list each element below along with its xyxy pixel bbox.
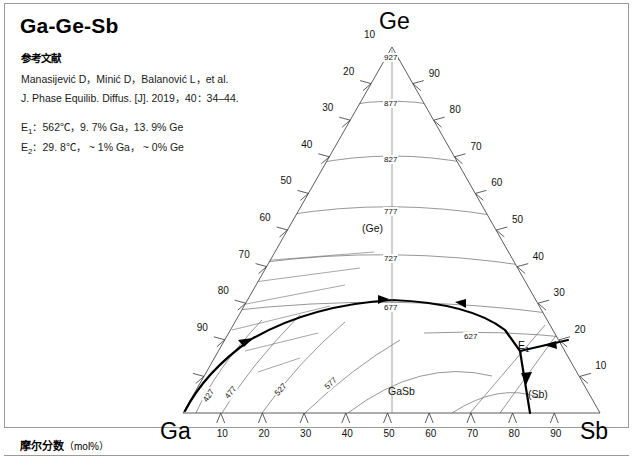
right-tick-20: 20: [574, 324, 585, 335]
isotherm-label-877: 877: [383, 99, 398, 108]
left-tick-40: 40: [301, 139, 312, 150]
left-tick-10: 10: [364, 29, 375, 40]
isotherm-label-677: 677: [383, 303, 398, 312]
bottom-tick-80: 80: [509, 428, 520, 439]
left-tick-20: 20: [343, 66, 354, 77]
isotherm-label-927: 927: [383, 53, 398, 62]
arrow-dome-right: [455, 299, 466, 308]
bottom-tick-10: 10: [217, 428, 228, 439]
isotherm-label-727: 727: [383, 254, 398, 263]
ternary-diagram: [0, 0, 634, 475]
right-tick-60: 60: [491, 177, 502, 188]
right-tick-80: 80: [450, 104, 461, 115]
right-tick-70: 70: [470, 141, 481, 152]
right-tick-90: 90: [429, 68, 440, 79]
left-tick-50: 50: [280, 175, 291, 186]
isotherm-label-777: 777: [383, 207, 398, 216]
right-tick-50: 50: [512, 214, 523, 225]
isotherm-label-627: 627: [463, 332, 478, 341]
ge-phase-label: (Ge): [362, 222, 383, 234]
bottom-tick-90: 90: [550, 428, 561, 439]
left-tick-90: 90: [197, 322, 208, 333]
isotherm-label-827: 827: [383, 155, 398, 164]
gasb-phase-label: GaSb: [388, 385, 415, 397]
bottom-tick-40: 40: [342, 428, 353, 439]
isotherm-627: [424, 332, 575, 338]
arrow-to-e2: [521, 372, 532, 385]
isotherm-527: [262, 322, 345, 413]
right-tick-40: 40: [533, 251, 544, 262]
left-tick-70: 70: [239, 249, 250, 260]
left-tick-80: 80: [218, 285, 229, 296]
right-tick-10: 10: [595, 360, 606, 371]
left-tick-60: 60: [260, 212, 271, 223]
bottom-tick-60: 60: [425, 428, 436, 439]
left-axis-ticks: [193, 81, 371, 384]
arrow-dome-lower-left: [238, 338, 253, 347]
right-tick-30: 30: [554, 287, 565, 298]
right-axis-ticks: [413, 81, 591, 384]
sb-phase-label: (Sb): [528, 388, 548, 400]
bottom-tick-20: 20: [258, 428, 269, 439]
isotherm-577-right: [348, 372, 492, 413]
bottom-tick-50: 50: [384, 428, 395, 439]
monovariant-lines: [185, 300, 568, 413]
isotherm-577: [305, 340, 400, 413]
tieline-fan: [196, 252, 374, 372]
bottom-tick-70: 70: [467, 428, 478, 439]
isotherm-curves: [196, 59, 575, 413]
bottom-tick-30: 30: [300, 428, 311, 439]
phase-diagram-page: Ga-Ge-Sb 参考文献 Manasijević D，Minić D，Bala…: [0, 0, 634, 475]
arrow-to-sb: [544, 341, 557, 349]
bottom-axis-ticks: [217, 413, 559, 423]
left-tick-30: 30: [322, 102, 333, 113]
gasb-liquidus-dome: [185, 300, 520, 411]
